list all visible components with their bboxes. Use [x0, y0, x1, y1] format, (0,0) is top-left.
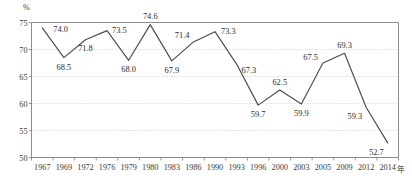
data-point-label: 71.8	[78, 44, 93, 53]
data-point-label: 67.5	[303, 53, 318, 62]
x-tick-label: 2009	[336, 163, 352, 172]
data-point-label: 67.9	[164, 66, 179, 75]
x-tick-label: 2012	[358, 163, 374, 172]
x-tick-label: 2000	[272, 163, 288, 172]
line-chart: % 年 505560657075196719691972197619791980…	[0, 0, 412, 183]
data-labels: 74.068.571.873.568.074.667.971.473.367.3…	[53, 12, 383, 157]
x-tick-label: 1980	[142, 163, 158, 172]
y-tick-label: 70	[19, 46, 27, 55]
data-line	[42, 25, 387, 143]
x-tick-label: 1972	[77, 163, 93, 172]
data-point-label: 73.3	[221, 27, 236, 36]
x-tick-label: 2014	[380, 163, 396, 172]
data-point-label: 74.0	[53, 25, 68, 34]
data-point-label: 67.3	[242, 66, 257, 75]
data-point-label: 59.3	[347, 112, 362, 121]
data-point-label: 68.5	[57, 63, 72, 72]
y-tick-label: 65	[19, 73, 27, 82]
y-tick-label: 75	[19, 19, 27, 28]
y-axis-ticks: 505560657075	[19, 19, 31, 163]
data-point-label: 74.6	[143, 12, 158, 21]
x-tick-label: 1969	[56, 163, 72, 172]
data-point-label: 71.4	[175, 31, 190, 40]
data-point-label: 59.9	[294, 109, 309, 118]
x-tick-label: 1996	[250, 163, 266, 172]
chart-canvas: 5055606570751967196919721976197919801983…	[0, 0, 412, 183]
data-point-label: 52.7	[369, 148, 384, 157]
data-point-label: 59.7	[251, 110, 266, 119]
y-tick-label: 60	[19, 100, 27, 109]
x-tick-label: 1986	[185, 163, 201, 172]
x-tick-label: 1976	[99, 163, 115, 172]
x-tick-label: 2005	[315, 163, 331, 172]
x-tick-label: 1990	[207, 163, 223, 172]
data-point-label: 62.5	[272, 78, 287, 87]
y-tick-label: 50	[19, 154, 27, 163]
data-point-label: 69.3	[337, 41, 352, 50]
data-point-label: 68.0	[121, 65, 136, 74]
x-tick-label: 1983	[164, 163, 180, 172]
y-tick-label: 55	[19, 127, 27, 136]
data-point-label: 73.5	[112, 26, 127, 35]
x-tick-label: 1979	[120, 163, 136, 172]
x-axis-ticks: 1967196919721976197919801983198619901993…	[32, 158, 399, 172]
x-tick-label: 1993	[228, 163, 244, 172]
x-tick-label: 1967	[34, 163, 50, 172]
x-tick-label: 2003	[293, 163, 309, 172]
